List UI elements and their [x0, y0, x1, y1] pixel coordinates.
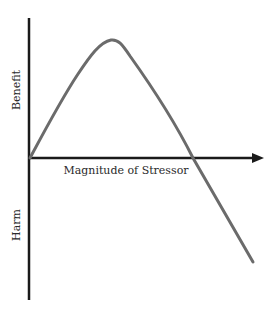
x-axis-label: Magnitude of Stressor	[63, 164, 189, 177]
harm-label: Harm	[10, 209, 23, 241]
benefit-label: Benefit	[10, 69, 23, 110]
x-axis-arrow-icon	[252, 153, 264, 163]
hormesis-diagram: Magnitude of Stressor Benefit Harm	[0, 0, 276, 316]
response-curve	[30, 40, 253, 262]
